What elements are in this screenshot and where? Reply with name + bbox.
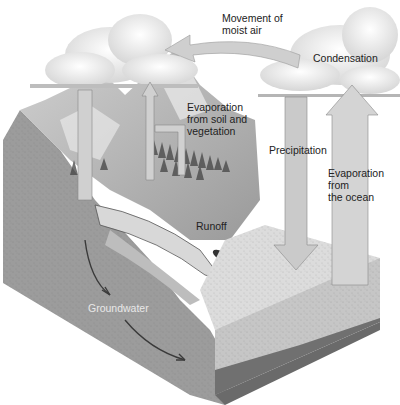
label-evaporation-soil: Evaporation from soil and vegetation	[187, 101, 247, 137]
label-condensation: Condensation	[313, 52, 378, 64]
water-cycle-diagram: Movement of moist air Condensation Evapo…	[0, 0, 400, 405]
label-groundwater: Groundwater	[88, 302, 149, 314]
label-movement-of-moist-air: Movement of moist air	[222, 12, 283, 36]
label-evaporation-ocean: Evaporation from the ocean	[328, 167, 384, 203]
label-runoff: Runoff	[196, 220, 227, 232]
label-precipitation: Precipitation	[269, 144, 327, 156]
